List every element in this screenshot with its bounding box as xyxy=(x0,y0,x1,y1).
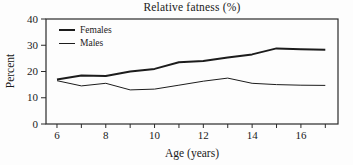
x-axis-label: Age (years) xyxy=(46,147,338,159)
y-tick-label: 20 xyxy=(27,65,39,77)
legend-label-males: Males xyxy=(80,38,103,48)
legend: Females Males xyxy=(59,25,112,48)
x-tick-label: 14 xyxy=(247,129,259,141)
x-tick-label: 8 xyxy=(103,129,109,141)
series-line-females xyxy=(57,48,325,79)
relative-fatness-chart: Relative fatness (%) Percent 01020304068… xyxy=(0,0,353,165)
series-line-males xyxy=(57,78,325,90)
y-tick-label: 40 xyxy=(27,13,39,25)
y-tick-label: 30 xyxy=(27,39,39,51)
legend-item-males: Males xyxy=(59,38,112,48)
legend-label-females: Females xyxy=(80,25,112,35)
y-tick-label: 10 xyxy=(27,91,39,103)
plot-area: 0102030406810121416 xyxy=(0,0,353,165)
x-tick-label: 12 xyxy=(198,129,209,141)
females-line-swatch xyxy=(59,29,75,31)
legend-item-females: Females xyxy=(59,25,112,35)
x-tick-label: 10 xyxy=(149,129,161,141)
males-line-swatch xyxy=(59,43,75,44)
x-tick-label: 16 xyxy=(295,129,307,141)
y-tick-label: 0 xyxy=(33,118,39,130)
x-tick-label: 6 xyxy=(54,129,60,141)
